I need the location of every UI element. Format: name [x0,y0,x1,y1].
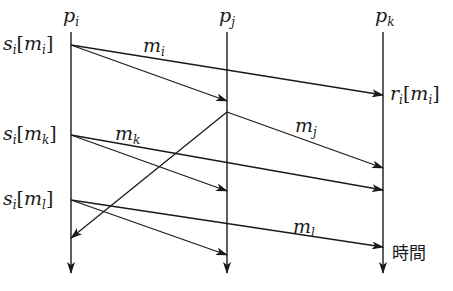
message-label-mk: mk [115,124,140,146]
event-label-recv-mi: ri[mi] [390,84,440,106]
event-label-send-mi: si[mi] [3,34,53,56]
message-mk-to-pj [71,135,227,191]
message-label-mi: mi [143,36,165,58]
process-label-pi: pi [63,6,79,28]
event-label-send-ml: si[ml] [3,189,53,211]
message-ml-to-pj [71,200,227,255]
time-axis-label: 時間 [392,245,426,262]
process-label-pj: pj [219,6,235,28]
message-label-ml: ml [293,217,315,239]
event-label-send-mk: si[mk] [3,124,57,146]
process-label-pk: pk [375,6,394,28]
message-mj-to-pi [71,112,227,238]
message-label-mj: mj [295,116,317,138]
space-time-diagram [0,0,453,291]
